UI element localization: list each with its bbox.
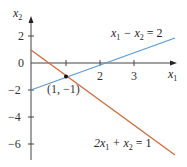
y-axis-label: x2 [12,6,22,22]
y-tick-label-m6: −6 [8,137,21,151]
y-axis-arrow-icon [29,16,34,23]
linear-system-plot: x2 x1 2 3 2 0 −2 −4 −6 (1, −1) x1 − x2 =… [0,0,187,167]
x-tick-label-3: 3 [131,69,137,83]
x-axis-label: x1 [167,67,177,83]
equation-label-blue: x1 − x2 = 2 [110,26,163,42]
y-tick-label-m4: −4 [8,110,21,124]
x-tick-label-2: 2 [97,69,103,83]
equation-label-orange: 2x1 + x2 = 1 [94,136,152,152]
intersection-label: (1, −1) [47,82,80,96]
y-tick-label-m2: −2 [8,83,21,97]
y-tick-label-2: 2 [18,29,24,43]
x-axis-arrow-icon [170,61,177,66]
y-tick-label-0: 0 [18,56,24,70]
intersection-point [64,75,68,79]
